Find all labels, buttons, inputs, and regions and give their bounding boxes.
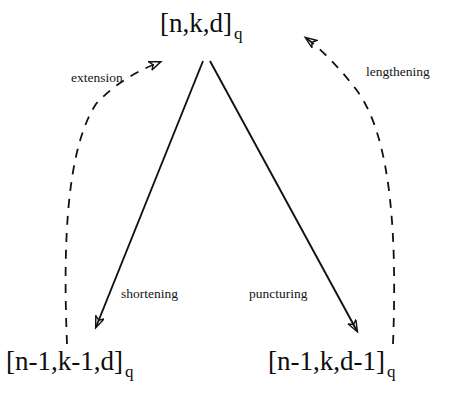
edge-lengthening-curve	[306, 38, 394, 344]
edge-label-lengthening: lengthening	[366, 65, 430, 79]
node-original-code: [n,k,d]q	[160, 10, 242, 42]
code-transformation-diagram: [n,k,d]q [n-1,k-1,d]q [n-1,k,d-1]q exten…	[0, 0, 459, 410]
node-original-code-label: [n,k,d]	[160, 8, 232, 38]
node-shortened-code-label: [n-1,k-1,d]	[6, 346, 123, 376]
node-original-code-subscript: q	[232, 24, 243, 43]
node-punctured-code-label: [n-1,k,d-1]	[268, 346, 385, 376]
node-punctured-code-subscript: q	[385, 362, 396, 381]
node-shortened-code: [n-1,k-1,d]q	[6, 348, 133, 380]
edge-label-extension: extension	[71, 71, 123, 85]
edge-label-puncturing: puncturing	[249, 287, 308, 301]
node-punctured-code: [n-1,k,d-1]q	[268, 348, 395, 380]
edge-label-shortening: shortening	[121, 287, 178, 301]
node-shortened-code-subscript: q	[123, 362, 134, 381]
